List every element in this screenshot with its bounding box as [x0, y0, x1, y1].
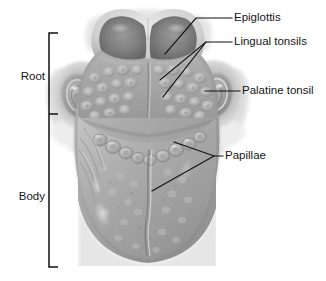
bracket-label-root: Root: [21, 70, 46, 82]
callout-label-lingual-tonsils: Lingual tonsils: [234, 35, 307, 47]
tongue-illustration: [70, 9, 226, 270]
callout-label-palatine-tonsil: Palatine tonsil: [242, 84, 314, 96]
bracket-label-body: Body: [19, 190, 45, 202]
callout-label-epiglottis: Epiglottis: [234, 11, 281, 23]
tongue-anatomy-figure: Root Body Epiglottis Lingual tonsils Pal…: [0, 0, 326, 281]
callout-label-papillae: Papillae: [225, 149, 266, 161]
figure-canvas: Root Body Epiglottis Lingual tonsils Pal…: [0, 0, 326, 281]
